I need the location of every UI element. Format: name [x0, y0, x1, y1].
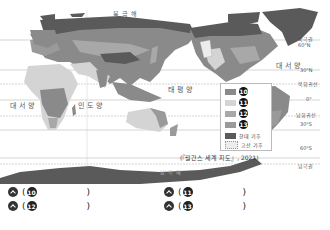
- answer-number: 12: [27, 201, 37, 211]
- map-svg: [0, 0, 330, 185]
- lat-label-equator: 0°: [306, 96, 312, 102]
- legend-swatch: [225, 89, 236, 95]
- legend-number: 12: [239, 109, 248, 118]
- answer-number: 11: [183, 187, 193, 197]
- chevron-up-icon: [164, 187, 174, 197]
- legend-item-12: 12: [225, 109, 248, 118]
- ocean-label-arctic: 북극해: [113, 9, 140, 18]
- answer-number: 10: [27, 187, 37, 197]
- ocean-label-atlantic-left: 대서양: [10, 100, 37, 110]
- chevron-up-icon: [8, 187, 18, 197]
- chevron-up-icon: [164, 201, 174, 211]
- lat-label-tropic-cancer: 북회귀선: [298, 80, 318, 87]
- legend-label: 한대 기후: [239, 132, 261, 139]
- climate-legend: 10 11 12 13 한대 기후 고산 기후: [220, 83, 272, 151]
- legend-item-13: 13: [225, 120, 248, 129]
- answer-10: ( 10 ): [8, 187, 90, 197]
- answer-12: ( 12 ): [8, 201, 90, 211]
- lat-label-60s: 60°S: [300, 145, 312, 151]
- chevron-up-icon: [8, 201, 18, 211]
- legend-number: 10: [239, 87, 248, 96]
- lat-label-30s: 30°S: [300, 121, 312, 127]
- lat-label-antarctic-circle: 남극권: [298, 162, 313, 169]
- legend-item-highland: 고산 기후: [225, 140, 263, 149]
- legend-label: 고산 기후: [241, 141, 263, 148]
- legend-number: 13: [239, 120, 248, 129]
- ocean-label-indian: 인도양: [78, 100, 105, 110]
- lat-label-arctic-circle: 북극권: [298, 35, 313, 42]
- legend-swatch: [225, 111, 236, 117]
- answer-13: ( 13 ): [164, 201, 246, 211]
- legend-swatch: [225, 141, 238, 149]
- legend-swatch: [225, 100, 236, 106]
- lat-label-tropic-capricorn: 남회귀선: [296, 111, 316, 118]
- legend-swatch: [225, 122, 236, 128]
- lat-label-30n: 30°N: [300, 67, 313, 73]
- legend-item-10: 10: [225, 87, 248, 96]
- lat-label-60n: 60°N: [298, 42, 311, 48]
- answer-11: ( 11 ): [164, 187, 246, 197]
- world-climate-map: 북극해 대서양 인도양 태평양 대서양 남극해 북극권 60°N 30°N 북회…: [0, 0, 330, 185]
- ocean-label-antarctic: 남극해: [160, 168, 184, 175]
- legend-item-polar: 한대 기후: [225, 131, 261, 140]
- legend-number: 11: [239, 98, 248, 107]
- legend-swatch: [225, 133, 236, 139]
- ocean-label-pacific: 태평양: [168, 84, 195, 94]
- ocean-label-atlantic-right: 대서양: [276, 60, 303, 70]
- answer-number: 13: [183, 201, 193, 211]
- legend-item-11: 11: [225, 98, 248, 107]
- map-source: (『월간스 세계 지도』, 2021): [180, 153, 259, 162]
